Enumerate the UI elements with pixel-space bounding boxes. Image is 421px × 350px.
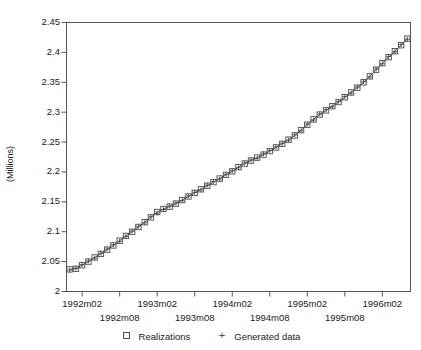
legend-item: +Generated data: [216, 330, 300, 342]
y-axis-tick-label: 2.4: [10, 46, 60, 57]
y-axis-tick-label: 2.15: [10, 195, 60, 206]
x-axis-tick-label: 1994m02: [197, 298, 267, 309]
y-axis-tick-label: 2.1: [10, 225, 60, 236]
x-axis-tick-label: 1992m08: [85, 312, 155, 323]
plot-frame: [67, 23, 411, 292]
plus-marker-icon: +: [216, 330, 227, 341]
y-axis-tick-label: 2.45: [10, 16, 60, 27]
legend-item: Realizations: [121, 330, 191, 342]
x-axis-tick-label: 1992m02: [47, 298, 117, 309]
plus-glyph: +: [219, 332, 225, 338]
x-axis-tick-label: 1994m08: [235, 312, 305, 323]
chart-figure: (Millions) 22.052.12.152.22.252.32.352.4…: [0, 0, 421, 350]
y-axis-tick-label: 2.2: [10, 165, 60, 176]
x-axis-tick-label: 1993m02: [122, 298, 192, 309]
legend-label: Realizations: [139, 331, 191, 342]
y-axis-tick-label: 2.05: [10, 255, 60, 266]
series-generated-data: [67, 37, 410, 273]
x-axis-tick-label: 1996m02: [347, 298, 417, 309]
y-axis-tick-label: 2.3: [10, 106, 60, 117]
y-axis-tick-label: 2.25: [10, 136, 60, 147]
y-axis-tick-label: 2.35: [10, 76, 60, 87]
series-connector-line: [70, 39, 408, 270]
square-glyph: [123, 332, 130, 339]
square-marker-icon: [121, 330, 132, 341]
legend-label: Generated data: [234, 331, 300, 342]
x-axis-tick-label: 1995m02: [272, 298, 342, 309]
x-axis-tick-label: 1993m08: [160, 312, 230, 323]
chart-legend: Realizations+Generated data: [0, 330, 421, 342]
series-realizations: [67, 36, 410, 272]
x-axis-tick-label: 1995m08: [310, 312, 380, 323]
y-axis-tick-label: 2: [10, 285, 60, 296]
